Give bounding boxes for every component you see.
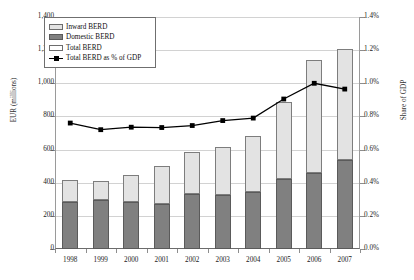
y-tick-label-right: 0.2% <box>364 212 398 219</box>
stacked-bar <box>306 60 322 249</box>
total-swatch <box>49 45 63 51</box>
y-tick-label-left: 0 <box>10 245 54 252</box>
x-tick-mark <box>177 249 178 253</box>
legend-label-total: Total BERD <box>66 44 102 52</box>
inward-swatch <box>49 24 63 30</box>
x-tick-mark <box>299 249 300 253</box>
bar-segment-domestic-berd <box>306 173 322 249</box>
legend-label-inward: Inward BERD <box>66 23 107 31</box>
stacked-bar <box>154 166 170 249</box>
x-tick-mark <box>147 249 148 253</box>
chart-legend: Inward BERD Domestic BERD Total BERD Tot… <box>44 17 156 68</box>
bar-segment-inward-berd <box>276 102 292 179</box>
bar-segment-domestic-berd <box>276 179 292 249</box>
stacked-bar <box>62 180 78 249</box>
legend-label-domestic: Domestic BERD <box>66 33 115 41</box>
bar-segment-inward-berd <box>123 175 139 202</box>
y-tick-label-right: 0.6% <box>364 146 398 153</box>
x-tick-mark <box>360 249 361 253</box>
y-tick-label-left: 400 <box>10 179 54 186</box>
legend-item-total-berd-pct-gdp: Total BERD as % of GDP <box>49 53 151 63</box>
bar-segment-inward-berd <box>215 147 231 194</box>
x-tick-mark <box>55 249 56 253</box>
bar-segment-inward-berd <box>184 152 200 194</box>
bar-segment-domestic-berd <box>215 195 231 249</box>
bar-segment-inward-berd <box>337 49 353 160</box>
legend-label-pct-gdp: Total BERD as % of GDP <box>66 54 141 62</box>
bar-segment-inward-berd <box>154 166 170 204</box>
stacked-bar <box>215 147 231 249</box>
x-tick-mark <box>86 249 87 253</box>
stacked-bar <box>93 181 109 249</box>
y-tick-label-right: 0.8% <box>364 113 398 120</box>
bar-segment-inward-berd <box>62 180 78 202</box>
bar-segment-domestic-berd <box>184 194 200 249</box>
x-tick-mark <box>116 249 117 253</box>
legend-item-domestic-berd: Domestic BERD <box>49 32 151 42</box>
y-tick-label-right: 1.4% <box>364 13 398 20</box>
legend-item-total-berd: Total BERD <box>49 43 151 53</box>
bar-segment-inward-berd <box>245 136 261 192</box>
chart-figure: 02004006008001,0001,2001,400 0.0%0.2%0.4… <box>0 0 414 280</box>
x-tick-mark <box>269 249 270 253</box>
y-axis-right-title: Share of GDP <box>400 50 408 150</box>
y-tick-label-left: 200 <box>10 212 54 219</box>
x-tick-mark <box>238 249 239 253</box>
bar-segment-domestic-berd <box>62 202 78 249</box>
y-tick-label-right: 0.0% <box>364 245 398 252</box>
bar-segment-inward-berd <box>93 181 109 200</box>
legend-item-inward-berd: Inward BERD <box>49 22 151 32</box>
y-tick-label-right: 1.0% <box>364 80 398 87</box>
bar-segment-inward-berd <box>306 60 322 173</box>
y-axis-left-title: EUR (millions) <box>10 50 18 150</box>
x-tick-label: 2007 <box>325 256 365 264</box>
bar-segment-domestic-berd <box>337 160 353 249</box>
stacked-bar <box>184 152 200 249</box>
bar-segment-domestic-berd <box>245 192 261 249</box>
line-marker-swatch <box>49 55 63 61</box>
stacked-bar <box>123 175 139 249</box>
stacked-bar <box>337 49 353 249</box>
bar-segment-domestic-berd <box>123 202 139 249</box>
stacked-bar <box>276 102 292 249</box>
bar-segment-domestic-berd <box>154 204 170 249</box>
domestic-swatch <box>49 34 63 40</box>
stacked-bar <box>245 136 261 249</box>
y-tick-label-right: 1.2% <box>364 47 398 54</box>
y-tick-label-right: 0.4% <box>364 179 398 186</box>
x-tick-mark <box>330 249 331 253</box>
x-tick-mark <box>208 249 209 253</box>
bar-segment-domestic-berd <box>93 200 109 249</box>
